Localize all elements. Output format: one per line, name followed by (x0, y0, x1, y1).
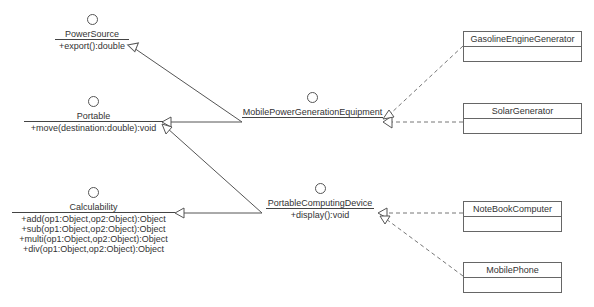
generalization-arrow-icon (128, 43, 140, 53)
realization-line-gasoline (389, 46, 463, 115)
realization-arrow-icon (380, 216, 390, 224)
interface-portable[interactable]: Portable +move(destination:double):void (24, 96, 163, 133)
interface-calculability[interactable]: Calculability +add(op1:Object,op2:Object… (12, 187, 175, 254)
operation: +sub(op1:Object,op2:Object):Object (12, 224, 175, 234)
class-solar-generator[interactable]: SolarGenerator (463, 103, 582, 134)
operation: +multi(op1:Object,op2:Object):Object (12, 234, 175, 244)
class-body (464, 278, 561, 293)
class-name: GasolineEngineGenerator (464, 32, 581, 47)
operation: +add(op1:Object,op2:Object):Object (12, 214, 175, 224)
interface-lollipop-icon (307, 92, 318, 103)
generalization-line-pcd-portable (167, 128, 262, 213)
operation: +export():double (55, 41, 129, 51)
class-body (464, 217, 561, 232)
interface-name: PowerSource (55, 29, 129, 39)
operation: +div(op1:Object,op2:Object):Object (12, 244, 175, 254)
operation: +display():void (266, 210, 374, 220)
interface-power-source[interactable]: PowerSource +export():double (55, 14, 129, 51)
interface-operations: +export():double (55, 39, 129, 51)
interface-operations: +move(destination:double):void (24, 121, 163, 133)
class-mobile-phone[interactable]: MobilePhone (463, 262, 562, 293)
interface-lollipop-icon (88, 96, 99, 107)
class-body (464, 119, 581, 134)
class-name: MobilePhone (464, 263, 561, 278)
interface-lollipop-icon (315, 183, 326, 194)
generalization-arrow-icon (175, 208, 184, 218)
realization-arrow-icon (383, 110, 394, 119)
interface-lollipop-icon (87, 14, 98, 25)
interface-operations: +display():void (266, 208, 374, 220)
class-body (464, 47, 581, 62)
interface-name: Portable (24, 111, 163, 121)
realization-line-mobilephone (386, 219, 463, 276)
interface-lollipop-icon (88, 187, 99, 198)
interface-name: Calculability (12, 202, 175, 212)
interface-operations: +add(op1:Object,op2:Object):Object +sub(… (12, 212, 175, 254)
operation: +move(destination:double):void (24, 123, 163, 133)
interface-portable-computing-device[interactable]: PortableComputingDevice +display():void (266, 183, 374, 220)
class-gasoline-engine-generator[interactable]: GasolineEngineGenerator (463, 31, 582, 62)
interface-name: MobilePowerGenerationEquipment (242, 107, 383, 117)
class-notebook-computer[interactable]: NoteBookComputer (463, 201, 562, 232)
class-name: NoteBookComputer (464, 202, 561, 217)
interface-name: PortableComputingDevice (266, 198, 374, 208)
interface-operations (242, 117, 383, 119)
interface-mobile-power-generation-equipment[interactable]: MobilePowerGenerationEquipment (242, 92, 383, 119)
class-name: SolarGenerator (464, 104, 581, 119)
